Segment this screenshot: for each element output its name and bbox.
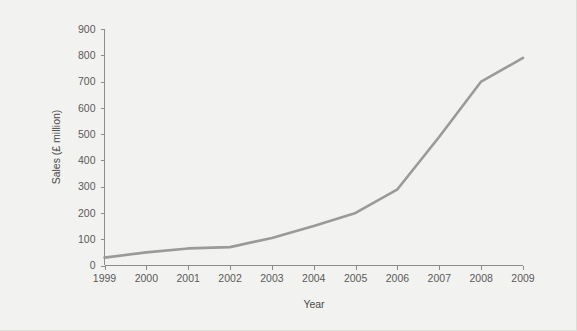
x-tick-label: 2003: [260, 272, 284, 284]
y-tick-label: 700: [78, 75, 96, 87]
x-tick-label: 2005: [344, 272, 368, 284]
x-tick-label: 2006: [386, 272, 410, 284]
y-tick-label: 400: [78, 154, 96, 166]
y-axis: 0100200300400500600700800900 Sales (£ mi…: [50, 23, 105, 272]
y-tick-label: 800: [78, 49, 96, 61]
line-chart: 0100200300400500600700800900 Sales (£ mi…: [0, 0, 577, 331]
y-tick-label: 500: [78, 128, 96, 140]
x-axis-tick-labels: 1999200020012002200320042005200620072008…: [93, 272, 535, 284]
y-axis-ticks: [101, 30, 105, 267]
x-tick-label: 2009: [511, 272, 535, 284]
y-tick-label: 0: [90, 259, 96, 271]
x-tick-label: 2000: [135, 272, 159, 284]
y-tick-label: 200: [78, 207, 96, 219]
x-axis: 1999200020012002200320042005200620072008…: [93, 266, 535, 311]
x-tick-label: 2007: [428, 272, 452, 284]
x-axis-ticks: [106, 266, 524, 270]
x-tick-label: 2001: [177, 272, 201, 284]
x-tick-label: 2008: [469, 272, 493, 284]
chart-figure: 0100200300400500600700800900 Sales (£ mi…: [0, 0, 577, 331]
x-tick-label: 2002: [218, 272, 242, 284]
y-tick-label: 900: [78, 23, 96, 35]
y-axis-tick-labels: 0100200300400500600700800900: [78, 23, 96, 272]
y-tick-label: 600: [78, 102, 96, 114]
x-tick-label: 1999: [93, 272, 117, 284]
sales-line-series: [105, 58, 524, 258]
y-tick-label: 300: [78, 180, 96, 192]
y-axis-title: Sales (£ million): [50, 110, 62, 185]
x-tick-label: 2004: [302, 272, 326, 284]
plot-area: [105, 58, 524, 258]
y-tick-label: 100: [78, 233, 96, 245]
x-axis-title: Year: [303, 298, 325, 310]
